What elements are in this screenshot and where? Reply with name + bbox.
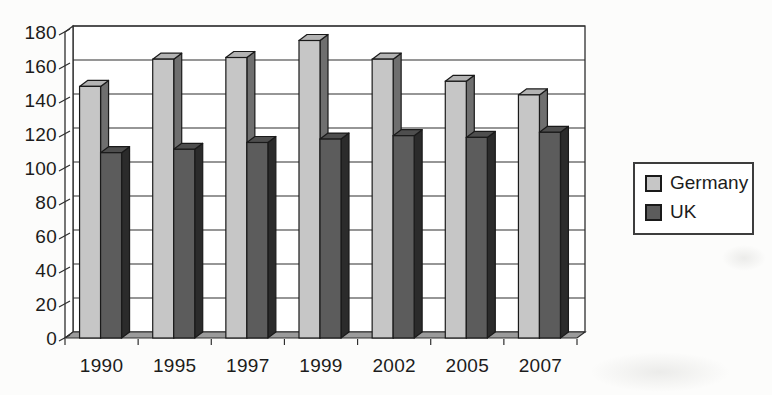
bar-front-face <box>466 137 487 338</box>
bar-uk-2005 <box>466 131 495 338</box>
y-tick-label: 20 <box>35 294 57 315</box>
bar-uk-2007 <box>539 126 568 338</box>
y-tick-label: 100 <box>24 158 57 179</box>
legend-item-germany: Germany <box>645 173 742 194</box>
bar-uk-2002 <box>393 130 422 338</box>
legend-swatch-uk <box>645 204 662 221</box>
bar-front-face <box>247 143 268 339</box>
y-tick-label: 160 <box>24 56 57 77</box>
bar-front-face <box>320 139 341 338</box>
bar-front-face <box>80 86 101 338</box>
y-tick-label: 0 <box>46 328 57 349</box>
bar-side-face <box>341 133 349 338</box>
y-tick-label: 80 <box>35 192 57 213</box>
bar-front-face <box>539 132 560 338</box>
chart-figure: 0204060801001201401601801990199519971999… <box>0 0 772 395</box>
y-tick-label: 180 <box>24 22 57 43</box>
legend-swatch-germany <box>645 175 662 192</box>
chart-legend: Germany UK <box>633 162 754 235</box>
bar-front-face <box>372 59 393 338</box>
bar-front-face <box>174 149 195 338</box>
bar-side-face <box>560 126 568 338</box>
bar-side-face <box>414 130 422 338</box>
bar-side-face <box>195 143 203 338</box>
x-category-label: 2002 <box>372 355 415 376</box>
bar-uk-1990 <box>101 147 130 338</box>
bar-uk-1999 <box>320 133 349 338</box>
bar-side-face <box>487 131 495 338</box>
y-tick-label: 120 <box>24 124 57 145</box>
legend-label-germany: Germany <box>670 173 748 194</box>
bar-front-face <box>445 81 466 338</box>
y-tick-label: 40 <box>35 260 57 281</box>
legend-label-uk: UK <box>670 202 696 223</box>
bar-uk-1997 <box>247 137 276 339</box>
bar-side-face <box>268 137 276 339</box>
x-category-label: 1995 <box>153 355 196 376</box>
x-category-label: 1997 <box>226 355 269 376</box>
x-category-label: 2005 <box>446 355 489 376</box>
bar-front-face <box>153 59 174 338</box>
bar-front-face <box>393 136 414 338</box>
x-category-label: 1999 <box>299 355 342 376</box>
x-category-label: 2007 <box>519 355 562 376</box>
x-category-label: 1990 <box>80 355 123 376</box>
y-tick-label: 140 <box>24 90 57 111</box>
bar-front-face <box>101 153 122 338</box>
bar-uk-1995 <box>174 143 203 338</box>
bar-front-face <box>226 58 247 339</box>
chart-left-wall <box>65 26 73 338</box>
legend-item-uk: UK <box>645 202 742 223</box>
bar-front-face <box>518 95 539 338</box>
y-tick-label: 60 <box>35 226 57 247</box>
bar-front-face <box>299 41 320 339</box>
bar-side-face <box>122 147 130 338</box>
